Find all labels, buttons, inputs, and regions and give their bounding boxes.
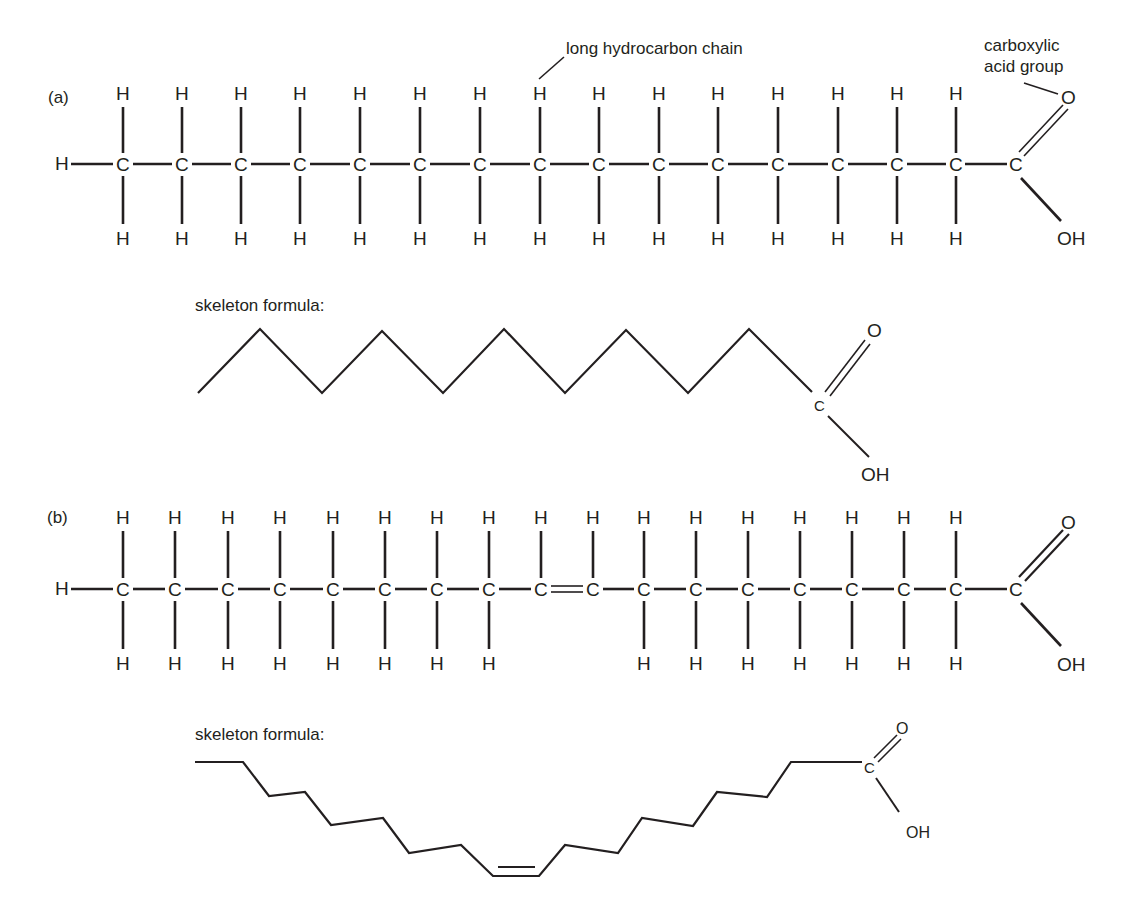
part-a-label: (a) — [48, 88, 69, 107]
skeleton-oxygen-b: O — [896, 720, 908, 737]
part-b-skeleton-formula: skeleton formula: C O OH — [195, 720, 930, 876]
hydrogen-atom-bottom: H — [378, 653, 392, 674]
carbonyl-carbon: C — [1009, 154, 1023, 175]
skeleton-label-b: skeleton formula: — [195, 725, 324, 744]
hydrogen-atom-top: H — [890, 83, 904, 104]
carbon-atom: C — [116, 579, 130, 600]
carbon-unit: CHH — [533, 83, 589, 249]
double-bond-line-1 — [1019, 105, 1063, 152]
carbon-atom: C — [949, 154, 963, 175]
carbon-unit: CHH — [482, 507, 531, 674]
hydrogen-atom-top: H — [293, 83, 307, 104]
carbon-atom: C — [116, 154, 130, 175]
carbon-unit: CHH — [741, 507, 790, 674]
hydrogen-atom-bottom: H — [711, 228, 725, 249]
hydrogen-atom-bottom: H — [413, 228, 427, 249]
carbon-atom: C — [711, 154, 725, 175]
hydrogen-atom-top: H — [771, 83, 785, 104]
annotation-leader-acid — [1024, 83, 1058, 94]
hydrogen-atom-top: H — [711, 83, 725, 104]
carbonyl-carbon-b: C — [1009, 579, 1023, 600]
hydrogen-atom-top: H — [534, 507, 548, 528]
carbon-unit: CHH — [771, 83, 828, 249]
hydrogen-atom-bottom: H — [689, 653, 703, 674]
hydrogen-atom-bottom: H — [221, 653, 235, 674]
carbon-unit: CHH — [273, 507, 323, 674]
carbon-unit: CHH — [116, 83, 172, 249]
part-b-label: (b) — [47, 508, 68, 527]
fatty-acid-diagram: (a) H CHHCHHCHHCHHCHHCHHCHHCHHCHHCHHCHHC… — [0, 0, 1134, 923]
hydrogen-atom-bottom: H — [168, 653, 182, 674]
hydrogen-atom-top: H — [326, 507, 340, 528]
carbonyl-oxygen: O — [1061, 87, 1076, 108]
hydrogen-atom-bottom: H — [353, 228, 367, 249]
carbon-atom: C — [430, 579, 444, 600]
hydrogen-atom-top: H — [473, 83, 487, 104]
carbon-unit: CHH — [793, 507, 842, 674]
carbon-atom: C — [741, 579, 755, 600]
carbon-unit: CHH — [116, 507, 165, 674]
skeleton-oxygen-a: O — [867, 320, 882, 341]
carbon-atom: C — [897, 579, 911, 600]
carbon-unit: CHH — [221, 507, 270, 674]
carbon-unit: CHH — [234, 83, 290, 249]
carbon-atom: C — [534, 579, 548, 600]
carbon-atom: C — [652, 154, 666, 175]
hydrogen-atom-bottom: H — [482, 653, 496, 674]
carbon-atom: C — [533, 154, 547, 175]
hydrogen-atom-bottom: H — [234, 228, 248, 249]
annotation-leader-chain — [539, 57, 564, 79]
hydrogen-atom-top: H — [430, 507, 444, 528]
carbon-atom: C — [473, 154, 487, 175]
carbon-atom: C — [293, 154, 307, 175]
hydrogen-atom-top: H — [116, 83, 130, 104]
hydrogen-atom-top: H — [116, 507, 130, 528]
carbon-unit: CHH — [890, 83, 946, 249]
hydrogen-atom-bottom: H — [430, 653, 444, 674]
carbon-atom: C — [890, 154, 904, 175]
hydrogen-atom-bottom: H — [845, 653, 859, 674]
carbon-unit: CHH — [592, 83, 649, 249]
carbon-unit: CHH — [326, 507, 375, 674]
part-b-structural-formula: (b) H CHHCHHCHHCHHCHHCHHCHHCHHCHCHCHHCHH… — [47, 507, 1086, 675]
part-a-skeleton-formula: skeleton formula: C O OH — [195, 296, 890, 485]
hydrogen-atom-top: H — [637, 507, 651, 528]
hydrogen-atom-top: H — [689, 507, 703, 528]
carbon-atom: C — [482, 579, 496, 600]
hydrogen-atom-bottom: H — [831, 228, 845, 249]
hydrocarbon-chain-b: CHHCHHCHHCHHCHHCHHCHHCHHCHCHCHHCHHCHHCHH… — [116, 507, 963, 674]
hydrogen-atom-bottom: H — [293, 228, 307, 249]
annotation-long-hydrocarbon-chain: long hydrocarbon chain — [566, 39, 743, 58]
carbon-unit: CHH — [949, 507, 963, 674]
carbon-atom: C — [592, 154, 606, 175]
hydrogen-atom-bottom: H — [771, 228, 785, 249]
skeleton-zigzag-a — [198, 329, 812, 393]
carbon-unit: CHH — [711, 83, 768, 249]
skeleton-carbon-b: C — [864, 759, 875, 776]
hydrogen-atom-bottom: H — [473, 228, 487, 249]
hydrogen-atom-bottom: H — [890, 228, 904, 249]
terminal-hydrogen-b: H — [55, 578, 69, 599]
hydrogen-atom-top: H — [949, 507, 963, 528]
hydrogen-atom-bottom: H — [949, 653, 963, 674]
hydrogen-atom-top: H — [586, 507, 600, 528]
skeleton-hydroxyl-b: OH — [906, 824, 930, 841]
carbon-unit: CHH — [689, 507, 738, 674]
hydrogen-atom-top: H — [845, 507, 859, 528]
carbon-atom: C — [175, 154, 189, 175]
annotation-acid-line2: acid group — [984, 57, 1063, 76]
hydrogen-atom-bottom: H — [533, 228, 547, 249]
hydrogen-atom-bottom: H — [637, 653, 651, 674]
skeleton-carbon-a: C — [814, 397, 825, 414]
hydrogen-atom-top: H — [533, 83, 547, 104]
carbon-atom: C — [234, 154, 248, 175]
carbon-unit: CHH — [353, 83, 410, 249]
carbon-atom: C — [793, 579, 807, 600]
carbon-unit: CHH — [637, 507, 686, 674]
skeleton-hydroxyl-a: OH — [861, 464, 890, 485]
terminal-hydrogen: H — [55, 153, 69, 174]
hydrogen-atom-top: H — [378, 507, 392, 528]
carbon-unit: CH — [586, 507, 634, 600]
carbon-unit: CHH — [168, 507, 218, 674]
carbon-unit: CHH — [831, 83, 887, 249]
